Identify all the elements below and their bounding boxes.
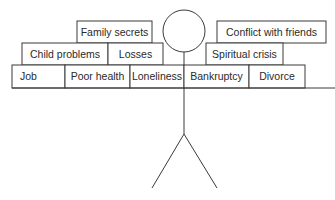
box-label: Bankruptcy <box>190 70 243 82</box>
box-child-problems: Child problems <box>22 43 108 65</box>
box-label: Divorce <box>259 70 295 82</box>
box-poor-health: Poor health <box>65 65 130 88</box>
box-label: Losses <box>119 48 152 60</box>
box-label: Child problems <box>30 48 100 60</box>
box-label: Conflict with friends <box>226 26 317 38</box>
box-spiritual-crisis: Spiritual crisis <box>206 43 283 65</box>
box-label: Job <box>20 70 37 82</box>
figure-head <box>163 10 205 52</box>
box-job: Job <box>12 65 65 88</box>
box-bankruptcy: Bankruptcy <box>184 65 249 88</box>
figure-left-leg <box>152 134 184 188</box>
box-label: Spiritual crisis <box>212 48 277 60</box>
stick-figure <box>152 10 217 188</box>
figure-right-leg <box>184 134 217 188</box>
box-family-secrets: Family secrets <box>77 21 152 43</box>
box-loneliness: Loneliness <box>130 65 184 88</box>
box-conflict-with-friends: Conflict with friends <box>217 21 326 43</box>
box-label: Family secrets <box>81 26 149 38</box>
box-losses: Losses <box>108 43 163 65</box>
box-label: Poor health <box>71 70 125 82</box>
box-label: Loneliness <box>132 70 182 82</box>
stressor-diagram: Family secrets Conflict with friends Chi… <box>0 0 335 200</box>
box-divorce: Divorce <box>249 65 305 88</box>
